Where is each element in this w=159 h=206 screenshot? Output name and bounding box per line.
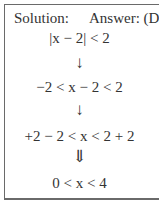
step-expression-2: −2 < x − 2 < 2 xyxy=(0,78,159,96)
down-arrow-icon: ↓ xyxy=(0,54,159,72)
down-arrow-icon: ↓ xyxy=(0,101,159,119)
solution-label: Solution: xyxy=(14,9,69,27)
answer-label: Answer: (D) xyxy=(89,9,159,27)
step-expression-3: +2 − 2 < x < 2 + 2 xyxy=(0,127,159,145)
double-down-arrow-icon: ⇓ xyxy=(0,148,159,166)
step-expression-4: 0 < x < 4 xyxy=(0,174,159,192)
step-expression-1: |x − 2| < 2 xyxy=(0,29,159,47)
